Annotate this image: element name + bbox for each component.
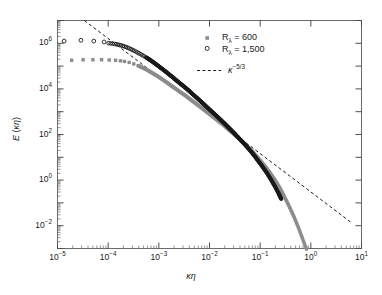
x-tick-label: 10−1 xyxy=(240,252,280,262)
y-tick-label: 104 xyxy=(18,83,52,93)
legend-marker-open-circle xyxy=(205,46,209,50)
y-axis-ticks xyxy=(58,21,362,249)
x-tick-label: 101 xyxy=(342,252,382,262)
axes-frame xyxy=(58,21,362,249)
series-rlambda-600 xyxy=(70,58,308,251)
y-tick-label: 106 xyxy=(18,37,52,47)
y-axis-label: E (κη) xyxy=(11,99,21,159)
x-tick-label: 10−2 xyxy=(190,252,230,262)
legend-item-label: Rλ = 600 xyxy=(222,32,257,44)
y-tick-label: 10−2 xyxy=(18,220,52,230)
x-axis-ticks xyxy=(58,21,362,249)
y-tick-label: 100 xyxy=(18,174,52,184)
x-tick-label: 10−4 xyxy=(88,252,128,262)
x-tick-label: 10−3 xyxy=(139,252,179,262)
legend-item-label: κ−5/3 xyxy=(228,65,245,75)
legend-item-label: Rλ = 1,500 xyxy=(222,44,265,56)
series-rlambda-1500 xyxy=(62,38,283,200)
x-tick-label: 10−5 xyxy=(38,252,78,262)
energy-spectrum-figure: 10−510−410−310−210−1100101 10−2100102104… xyxy=(0,0,382,295)
legend xyxy=(197,36,221,70)
chart-canvas xyxy=(0,0,382,295)
y-tick-label: 102 xyxy=(18,129,52,139)
legend-marker-filled-square xyxy=(205,36,209,40)
x-axis-label: κη xyxy=(0,271,382,281)
x-tick-label: 100 xyxy=(291,252,331,262)
